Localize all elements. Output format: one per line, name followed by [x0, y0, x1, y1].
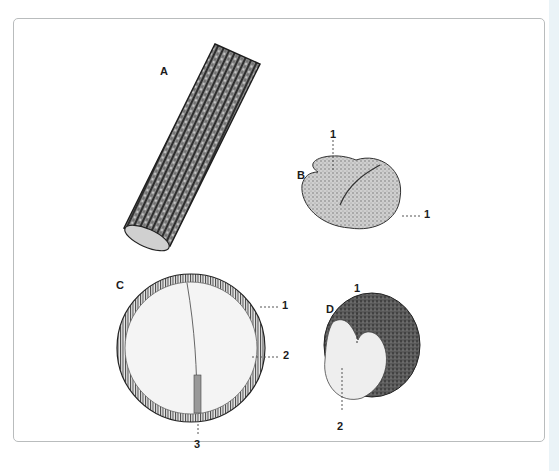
panel-label-d: D	[326, 304, 334, 315]
panel-label-c: C	[116, 280, 124, 291]
callout-d-2: 2	[337, 421, 343, 432]
callout-c-1: 1	[282, 300, 288, 311]
panel-d-cut-seed	[324, 293, 420, 412]
panel-label-b: B	[297, 170, 305, 181]
panel-a-stem	[121, 44, 260, 256]
callout-c-3: 3	[194, 439, 200, 450]
panel-c-cross-section	[117, 274, 278, 436]
illustration-canvas	[0, 0, 559, 471]
callout-b-1-top: 1	[330, 129, 336, 140]
callout-d-1: 1	[354, 283, 360, 294]
panel-label-a: A	[160, 66, 168, 77]
callout-b-1-right: 1	[424, 209, 430, 220]
figure-caption	[60, 460, 530, 471]
panel-b-seed	[302, 140, 422, 229]
callout-c-2: 2	[283, 350, 289, 361]
